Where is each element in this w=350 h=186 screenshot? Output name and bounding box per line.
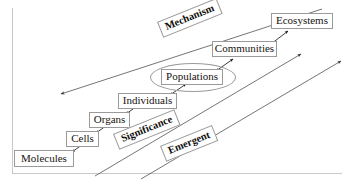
node-molecules[interactable]: Molecules [14, 150, 74, 167]
node-communities-label: Communities [215, 43, 274, 54]
node-ecosystems[interactable]: Ecosystems [271, 13, 333, 29]
node-cells-label: Cells [71, 133, 94, 144]
node-cells[interactable]: Cells [66, 131, 99, 147]
figure-canvas: Molecules Cells Organs Individuals Popul… [0, 0, 350, 186]
node-organs-label: Organs [94, 114, 126, 125]
node-populations-label: Populations [166, 71, 218, 82]
node-ecosystems-label: Ecosystems [276, 15, 328, 26]
node-molecules-label: Molecules [21, 153, 67, 164]
node-populations[interactable]: Populations [161, 69, 223, 85]
node-individuals[interactable]: Individuals [118, 93, 177, 109]
node-individuals-label: Individuals [123, 95, 173, 106]
node-organs[interactable]: Organs [89, 112, 130, 128]
node-communities[interactable]: Communities [212, 41, 277, 57]
